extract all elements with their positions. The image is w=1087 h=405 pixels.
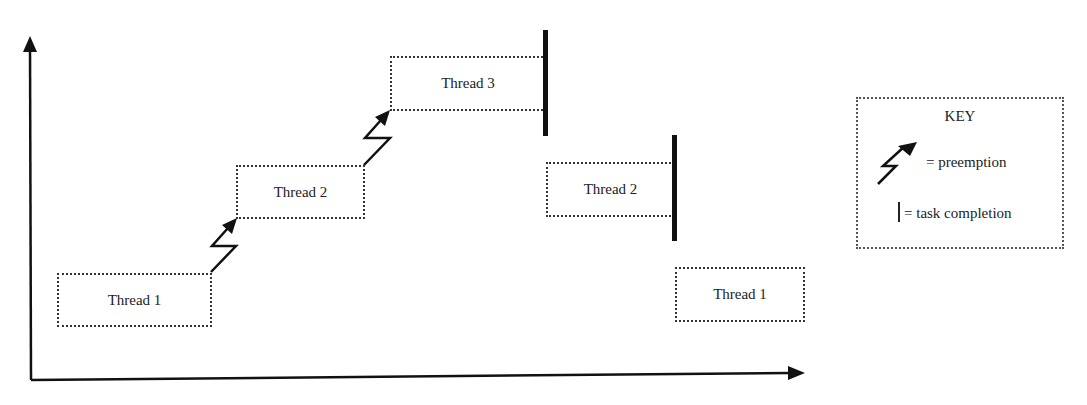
legend-key: KEY = preemption = task completion: [856, 97, 1064, 249]
key-title: KEY: [858, 108, 1062, 125]
task-completion-bar: [672, 135, 677, 241]
x-axis-arrow-icon: [788, 366, 805, 380]
key-completion-icon: [898, 202, 900, 222]
preemption-arrow-icon: [364, 110, 390, 165]
task-completion-bar: [543, 30, 548, 136]
y-axis-arrow-icon: [23, 36, 37, 52]
thread-block: Thread 1: [675, 267, 805, 322]
thread-label: Thread 1: [713, 286, 767, 303]
thread-label: Thread 2: [274, 184, 328, 201]
thread-label: Thread 1: [108, 292, 162, 309]
thread-block: Thread 3: [390, 56, 546, 111]
thread-block: Thread 1: [57, 273, 212, 327]
y-axis: [30, 45, 31, 380]
preemption-arrow-icon: [211, 218, 237, 272]
key-preemption-label: = preemption: [926, 154, 1007, 171]
thread-block: Thread 2: [236, 165, 365, 219]
key-completion-label: = task completion: [904, 205, 1012, 222]
thread-label: Thread 2: [584, 181, 638, 198]
thread-label: Thread 3: [441, 75, 495, 92]
x-axis: [31, 373, 790, 380]
thread-block: Thread 2: [546, 162, 675, 217]
